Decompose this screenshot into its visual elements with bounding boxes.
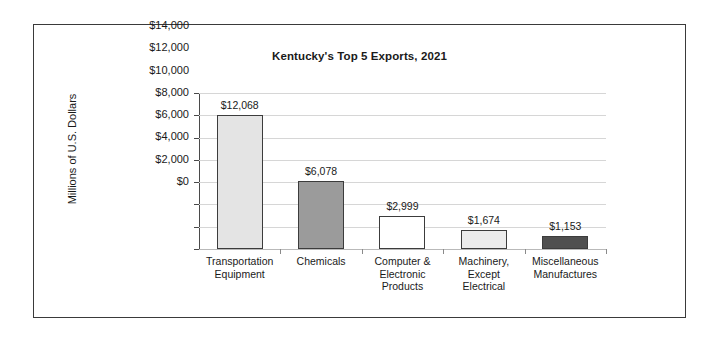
bar[interactable]: [461, 230, 507, 249]
y-axis-tick-mark: [194, 93, 199, 94]
y-axis-tick-label: $8,000: [99, 86, 189, 98]
y-axis-tick-label: $14,000: [99, 19, 189, 31]
x-axis-category-separator: [525, 249, 526, 254]
y-axis-tick-mark: [194, 249, 199, 250]
x-axis-category-label-line: Chemicals: [280, 255, 361, 268]
y-axis-tick-label: $2,000: [99, 153, 189, 165]
gridline: [199, 249, 606, 250]
y-axis-tick-mark: [194, 227, 199, 228]
y-axis-tick-mark: [194, 138, 199, 139]
y-axis-title: Millions of U.S. Dollars: [66, 64, 78, 234]
x-axis-category-label: MiscellaneousManufactures: [525, 255, 606, 280]
x-axis-category-label-line: Except: [443, 268, 524, 281]
x-axis-category-label-line: Manufactures: [525, 268, 606, 281]
chart-frame: Kentucky's Top 5 Exports, 2021 Millions …: [33, 24, 686, 318]
x-axis-category-label-line: Electronic: [362, 268, 443, 281]
y-axis-tick-label: $10,000: [99, 64, 189, 76]
y-axis-tick-mark: [194, 204, 199, 205]
x-axis-category-labels: TransportationEquipmentChemicalsComputer…: [199, 255, 606, 311]
y-axis-tick-mark: [194, 160, 199, 161]
x-axis-category-label-line: Transportation: [199, 255, 280, 268]
plot-area: $12,068$6,078$2,999$1,674$1,153: [199, 93, 606, 249]
y-axis-tick-label: $0: [99, 175, 189, 187]
bar[interactable]: [542, 236, 588, 249]
bar-value-label: $1,674: [468, 214, 500, 226]
x-axis-category-label: Computer &ElectronicProducts: [362, 255, 443, 293]
y-axis-tick-mark: [194, 182, 199, 183]
bar[interactable]: [217, 115, 263, 249]
y-axis-tick-label: $12,000: [99, 41, 189, 53]
x-axis-category-label-line: Electrical: [443, 280, 524, 293]
bar-slot: $2,999: [362, 93, 443, 249]
x-axis-category-separator: [280, 249, 281, 254]
y-axis-tick-mark: [194, 115, 199, 116]
bar[interactable]: [379, 216, 425, 249]
bar-value-label: $2,999: [386, 200, 418, 212]
x-axis-category-label-line: Equipment: [199, 268, 280, 281]
x-axis-category-label-line: Computer &: [362, 255, 443, 268]
x-axis-category-separator: [606, 249, 607, 254]
y-axis-tick-labels: $14,000$12,000$10,000$8,000$6,000$4,000$…: [96, 25, 189, 317]
x-axis-category-label: Machinery,ExceptElectrical: [443, 255, 524, 293]
x-axis-category-label-line: Miscellaneous: [525, 255, 606, 268]
x-axis-category-label-line: Machinery,: [443, 255, 524, 268]
bar-slot: $1,153: [525, 93, 606, 249]
bar-slot: $1,674: [443, 93, 524, 249]
bar-value-label: $12,068: [221, 99, 259, 111]
x-axis-category-label: Chemicals: [280, 255, 361, 268]
x-axis-category-label: TransportationEquipment: [199, 255, 280, 280]
bar-value-label: $1,153: [549, 220, 581, 232]
x-axis-category-label-line: Products: [362, 280, 443, 293]
bar[interactable]: [298, 181, 344, 249]
y-axis-tick-label: $6,000: [99, 108, 189, 120]
bar-slot: $6,078: [280, 93, 361, 249]
x-axis-category-separator: [443, 249, 444, 254]
y-axis-tick-label: $4,000: [99, 130, 189, 142]
x-axis-category-separator: [362, 249, 363, 254]
bar-value-label: $6,078: [305, 165, 337, 177]
bar-slot: $12,068: [199, 93, 280, 249]
